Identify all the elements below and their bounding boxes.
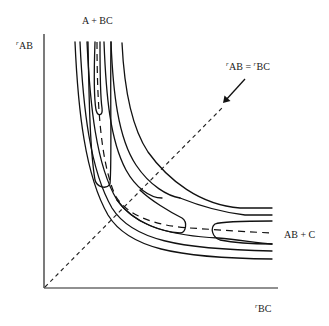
reactants-label: A + BC xyxy=(82,16,113,26)
arrow-icon xyxy=(223,79,245,103)
contour-outer-2 xyxy=(80,42,272,251)
contour-far-2 xyxy=(111,42,180,198)
y-axis-label: rAB xyxy=(16,40,33,51)
contour-plot xyxy=(0,0,329,326)
symmetry-line-label: rAB = rBC xyxy=(226,61,270,72)
x-axis-label: rBC xyxy=(255,303,271,314)
contour-3 xyxy=(87,42,272,244)
products-label: AB + C xyxy=(284,230,315,240)
potential-energy-surface-diagram: A + BC rAB rAB = rBC AB + C rBC xyxy=(0,0,329,326)
symmetry-line xyxy=(45,108,222,287)
